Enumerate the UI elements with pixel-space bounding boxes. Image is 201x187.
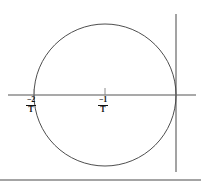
fraction-numerator: −2 bbox=[26, 96, 36, 104]
fraction-neg-one-over-T: −1 T bbox=[98, 96, 108, 114]
figure-container: −2 T −1 T bbox=[0, 0, 201, 187]
fraction-denominator: T bbox=[98, 106, 108, 114]
axis-label-neg-two-over-T: −2 T bbox=[26, 96, 36, 114]
fraction-neg-two-over-T: −2 T bbox=[26, 96, 36, 114]
axis-label-neg-one-over-T: −1 T bbox=[98, 96, 108, 114]
diagram-canvas bbox=[0, 0, 201, 187]
fraction-numerator: −1 bbox=[98, 96, 108, 104]
fraction-denominator: T bbox=[26, 106, 36, 114]
